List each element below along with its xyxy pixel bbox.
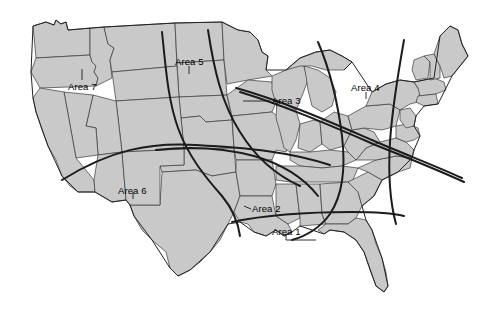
state-florida — [318, 218, 388, 292]
map-label-area-2: Area 2 — [252, 204, 281, 214]
map-label-area-5: Area 5 — [175, 57, 204, 67]
state-indiana — [298, 120, 322, 152]
map-label-area-6: Area 6 — [118, 186, 147, 196]
map-label-area-3: Area 3 — [272, 96, 301, 106]
map-label-area-7: Area 7 — [68, 82, 97, 92]
map-label-area-4: Area 4 — [351, 83, 380, 93]
map-label-area-1: Area 1 — [272, 227, 301, 237]
state-washington — [33, 20, 90, 58]
us-area-map: Area 7 Area 5 Area 3 Area 4 Area 6 Area … — [0, 0, 484, 310]
state-michigan — [304, 66, 336, 112]
state-arkansas — [236, 160, 276, 196]
state-kentucky — [290, 150, 356, 168]
state-michigan-upper — [286, 50, 352, 70]
map-graphic — [0, 0, 484, 310]
